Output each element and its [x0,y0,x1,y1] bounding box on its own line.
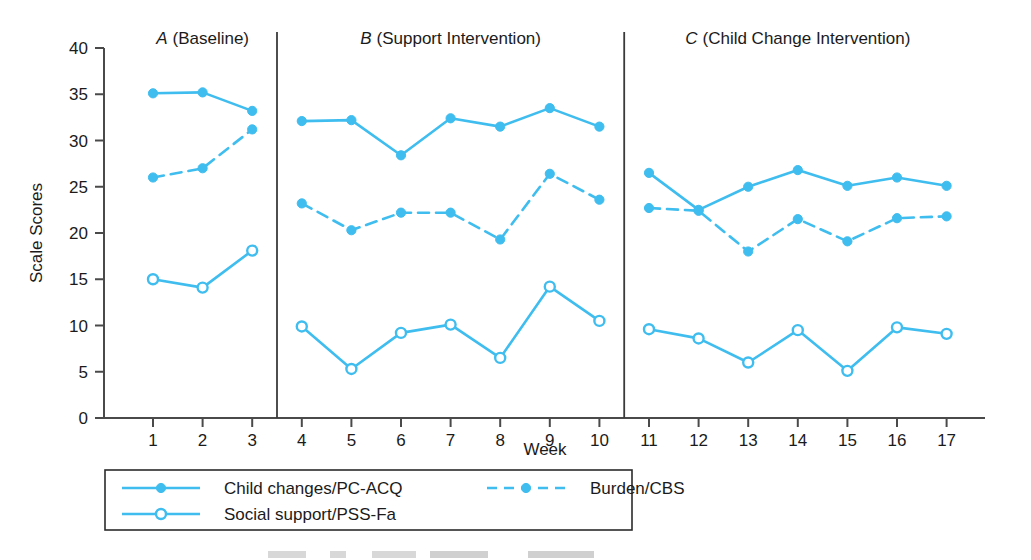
phase-header-text: (Baseline) [172,29,249,48]
x-tick-label: 16 [888,431,907,450]
phase-header: B(Support Intervention) [360,29,541,48]
caption-glyph-fragment [268,551,306,558]
data-point-open [793,325,803,335]
data-point-filled [793,166,802,175]
legend-label: Social support/PSS-Fa [224,505,397,524]
data-point-filled [446,208,455,217]
data-point-filled [545,104,554,113]
caption-glyph-fragment [430,551,488,558]
y-tick-label: 25 [69,178,88,197]
legend-marker-filled [521,483,530,492]
legend-label: Burden/CBS [590,479,685,498]
data-point-open [346,364,356,374]
legend-label: Child changes/PC-ACQ [224,479,403,498]
data-point-open [297,321,307,331]
figure-container: 0510152025303540 12345678910111213141516… [0,0,1031,560]
data-point-open [198,283,208,293]
x-tick-label: 2 [198,431,207,450]
data-point-filled [942,212,951,221]
caption-glyph-fragment [528,551,594,558]
data-point-filled [396,151,405,160]
x-tick-label: 7 [446,431,455,450]
data-point-filled [644,203,653,212]
data-point-filled [297,116,306,125]
x-tick-label: 10 [590,431,609,450]
data-point-filled [694,206,703,215]
data-point-open [842,366,852,376]
data-point-filled [446,114,455,123]
x-tick-label: 3 [247,431,256,450]
x-tick-label: 8 [495,431,504,450]
data-point-open [594,316,604,326]
phase-header: C(Child Change Intervention) [685,29,910,48]
phase-header-text: (Support Intervention) [377,29,541,48]
caption-glyph-fragment [330,551,346,558]
data-point-filled [248,106,257,115]
x-tick-label: 1 [148,431,157,450]
y-tick-label: 30 [69,132,88,151]
x-tick-label: 13 [739,431,758,450]
data-point-filled [248,125,257,134]
data-point-filled [595,122,604,131]
data-point-filled [148,173,157,182]
y-tick-label: 20 [69,224,88,243]
data-point-open [396,328,406,338]
data-point-open [446,320,456,330]
data-point-filled [892,173,901,182]
data-point-open [892,322,902,332]
phase-header-text: (Child Change Intervention) [702,29,910,48]
data-point-open [644,324,654,334]
data-point-filled [496,122,505,131]
y-tick-label: 15 [69,270,88,289]
y-tick-label: 40 [69,39,88,58]
data-point-filled [843,181,852,190]
y-axis-title: Scale Scores [27,183,46,283]
x-axis-title: Week [523,440,567,459]
data-point-open [247,246,257,256]
x-tick-label: 15 [838,431,857,450]
data-point-filled [148,89,157,98]
data-point-filled [843,237,852,246]
data-point-filled [496,235,505,244]
data-point-open [545,282,555,292]
data-point-filled [198,88,207,97]
data-point-open [743,358,753,368]
data-point-filled [545,169,554,178]
x-tick-label: 12 [689,431,708,450]
line-chart: 0510152025303540 12345678910111213141516… [0,0,1031,560]
data-point-open [942,329,952,339]
data-point-open [148,274,158,284]
phase-letter: C [685,29,698,48]
y-tick-label: 35 [69,85,88,104]
data-point-filled [744,247,753,256]
x-tick-label: 4 [297,431,306,450]
y-tick-label: 5 [79,363,88,382]
data-point-filled [396,208,405,217]
data-point-open [495,353,505,363]
legend-marker-open [156,509,166,519]
data-point-filled [347,226,356,235]
x-tick-label: 5 [347,431,356,450]
y-tick-label: 0 [79,409,88,428]
x-tick-label: 17 [937,431,956,450]
caption-glyph-fragment [372,551,416,558]
x-tick-label: 6 [396,431,405,450]
data-point-filled [595,195,604,204]
data-point-filled [744,182,753,191]
x-tick-label: 14 [788,431,807,450]
phase-letter: A [155,29,167,48]
data-point-filled [793,215,802,224]
x-tick-label: 11 [640,431,658,450]
legend-marker-filled [156,483,165,492]
data-point-filled [198,164,207,173]
data-point-open [694,333,704,343]
data-point-filled [347,116,356,125]
data-point-filled [892,214,901,223]
data-point-filled [297,199,306,208]
data-point-filled [942,181,951,190]
phase-letter: B [360,29,371,48]
y-tick-label: 10 [69,317,88,336]
data-point-filled [644,168,653,177]
